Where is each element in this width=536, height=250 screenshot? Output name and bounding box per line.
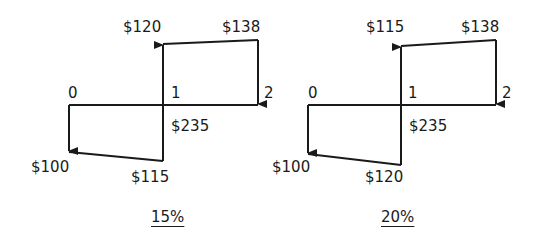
cash-flow-label: $138 — [461, 20, 499, 35]
diagram-15pct — [69, 40, 258, 161]
period-label: 1 — [171, 86, 181, 101]
period-label: 1 — [408, 86, 418, 101]
cash-flow-label: $115 — [366, 20, 404, 35]
cash-flow-label: $138 — [222, 20, 260, 35]
cash-flow-label: $235 — [171, 119, 209, 134]
period-label: 2 — [502, 86, 512, 101]
cash-flow-label: $120 — [123, 20, 161, 35]
cash-flow-label: $100 — [31, 160, 69, 175]
cash-flow-label: $115 — [131, 170, 169, 185]
cash-flow-label: $235 — [409, 119, 447, 134]
slope-line-bottom — [308, 154, 401, 165]
slope-line-top — [163, 40, 258, 44]
cash-flow-diagrams — [0, 0, 536, 250]
diagram-20pct — [308, 40, 496, 165]
period-label: 0 — [308, 86, 318, 101]
interest-rate-caption: 20% — [381, 210, 414, 225]
cash-flow-label: $100 — [272, 160, 310, 175]
cash-flow-label: $120 — [365, 170, 403, 185]
slope-line-top — [401, 40, 496, 46]
slope-line-bottom — [69, 152, 163, 161]
interest-rate-caption: 15% — [151, 210, 184, 225]
period-label: 0 — [68, 86, 78, 101]
period-label: 2 — [264, 86, 274, 101]
